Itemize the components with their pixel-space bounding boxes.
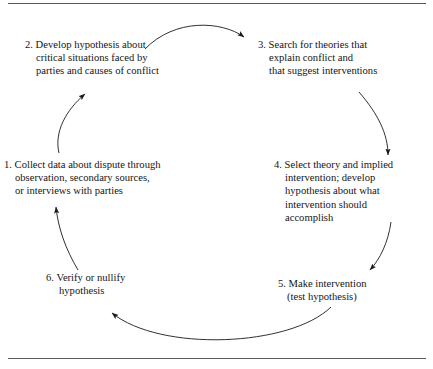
step-2-line-1: 2. Develop hypothesis about	[25, 38, 159, 51]
arrow-6-to-1	[56, 207, 78, 270]
step-4-line-2: intervention; develop	[274, 171, 393, 184]
arrow-3-to-4	[359, 92, 388, 155]
step-6-text: 6. Verify or nullify hypothesis	[46, 271, 125, 297]
step-5-line-1: 5. Make intervention	[278, 277, 367, 290]
step-5-line-2: (test hypothesis)	[278, 290, 367, 303]
step-2-text: 2. Develop hypothesis about critical sit…	[25, 38, 159, 78]
step-2-line-2: critical situations faced by	[25, 51, 159, 64]
step-4-line-5: accomplish	[274, 211, 393, 224]
step-6-line-1: 6. Verify or nullify	[46, 271, 125, 284]
step-4-line-4: intervention should	[274, 198, 393, 211]
step-3-line-1: 3. Search for theories that	[258, 38, 377, 51]
step-4-line-1: 4. Select theory and implied	[274, 158, 393, 171]
step-1-line-1: 1. Collect data about dispute through	[4, 158, 161, 171]
step-6-line-2: hypothesis	[46, 284, 125, 297]
arrow-5-to-6	[112, 307, 331, 340]
step-3-line-2: explain conflict and	[258, 51, 377, 64]
step-2-line-3: parties and causes of conflict	[25, 64, 159, 77]
step-1-line-3: or interviews with parties	[4, 184, 161, 197]
step-1-line-2: observation, secondary sources,	[4, 171, 161, 184]
arrow-1-to-2	[58, 94, 85, 153]
arrow-2-to-3	[145, 25, 244, 49]
step-4-line-3: hypothesis about what	[274, 184, 393, 197]
step-5-text: 5. Make intervention (test hypothesis)	[278, 277, 367, 303]
arrow-4-to-5	[370, 222, 391, 270]
step-4-text: 4. Select theory and implied interventio…	[274, 158, 393, 224]
step-3-text: 3. Search for theories that explain conf…	[258, 38, 377, 78]
step-1-text: 1. Collect data about dispute through ob…	[4, 158, 161, 198]
step-3-line-3: that suggest interventions	[258, 64, 377, 77]
action-research-cycle-figure: 1. Collect data about dispute through ob…	[0, 0, 433, 369]
